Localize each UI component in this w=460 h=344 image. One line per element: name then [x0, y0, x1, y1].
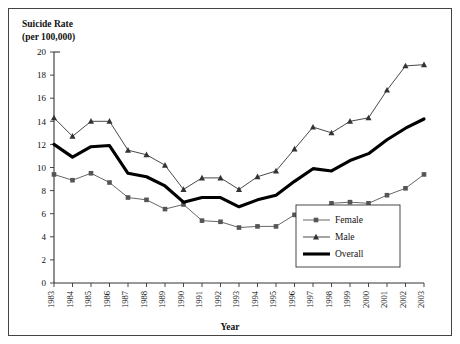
x-tick-label: 1998 — [324, 291, 334, 308]
y-tick-label: 10 — [37, 163, 47, 173]
x-tick-label: 1993 — [231, 291, 241, 308]
data-point-marker — [422, 172, 427, 177]
x-axis-ticks: 1983198419851986198719881989199019911992… — [46, 283, 426, 308]
x-tick-label: 1989 — [157, 291, 167, 308]
suicide-rate-line-chart: Suicide Rate (per 100,000) 0246810121416… — [0, 0, 460, 344]
data-point-marker — [421, 62, 427, 68]
x-tick-label: 1991 — [194, 291, 204, 308]
data-point-marker — [310, 124, 316, 130]
data-point-marker — [365, 115, 371, 121]
data-point-marker — [163, 207, 168, 212]
legend-label: Female — [335, 215, 363, 225]
y-tick-label: 4 — [42, 232, 47, 242]
y-axis-title-line2: (per 100,000) — [22, 32, 75, 43]
data-point-marker — [52, 172, 57, 177]
data-point-marker — [89, 171, 94, 176]
x-tick-label: 1995 — [268, 291, 278, 308]
x-tick-label: 2000 — [361, 291, 371, 308]
x-tick-label: 1988 — [139, 291, 149, 308]
data-point-marker — [144, 198, 149, 203]
x-tick-label: 1986 — [102, 291, 112, 308]
x-tick-label: 1997 — [305, 291, 315, 308]
y-tick-label: 0 — [42, 278, 47, 288]
data-point-marker — [51, 115, 57, 121]
x-tick-label: 1985 — [83, 291, 93, 308]
data-point-marker — [236, 186, 242, 192]
data-point-marker — [385, 193, 390, 198]
data-point-marker — [200, 218, 205, 223]
y-tick-label: 18 — [37, 70, 47, 80]
data-point-marker — [162, 162, 168, 168]
x-tick-label: 1987 — [120, 291, 130, 308]
y-tick-label: 20 — [37, 47, 47, 57]
y-tick-label: 16 — [37, 93, 47, 103]
y-tick-label: 2 — [42, 255, 47, 265]
data-point-marker — [218, 219, 223, 224]
data-point-marker — [237, 225, 242, 230]
x-tick-label: 1996 — [287, 291, 297, 308]
x-axis-title: Year — [221, 322, 241, 332]
x-tick-label: 2002 — [398, 291, 408, 308]
chart-legend: FemaleMaleOverall — [296, 205, 400, 267]
x-tick-label: 1990 — [176, 291, 186, 308]
x-tick-label: 1984 — [65, 290, 75, 308]
y-tick-label: 12 — [37, 140, 46, 150]
chart-figure: Suicide Rate (per 100,000) 0246810121416… — [0, 0, 460, 344]
data-point-marker — [107, 180, 112, 185]
data-point-marker — [274, 224, 279, 229]
x-tick-label: 2003 — [416, 291, 426, 308]
data-point-marker — [125, 147, 131, 153]
data-point-marker — [70, 178, 75, 183]
y-axis-ticks: 02468101214161820 — [37, 47, 54, 288]
data-point-marker — [126, 195, 131, 200]
data-point-marker — [255, 224, 260, 229]
x-tick-label: 1992 — [213, 291, 223, 308]
x-tick-label: 1994 — [250, 290, 260, 308]
y-axis-title-line1: Suicide Rate — [22, 19, 73, 29]
y-tick-label: 14 — [37, 117, 47, 127]
y-tick-label: 8 — [42, 186, 47, 196]
y-tick-label: 6 — [42, 209, 47, 219]
legend-label: Male — [335, 232, 355, 242]
data-point-marker — [403, 186, 408, 191]
legend-label: Overall — [335, 249, 364, 259]
x-tick-label: 2001 — [379, 291, 389, 308]
data-point-marker — [348, 200, 353, 205]
y-axis-title: Suicide Rate (per 100,000) — [22, 19, 75, 43]
series-male — [51, 62, 427, 192]
x-tick-label: 1999 — [342, 291, 352, 308]
series-overall — [54, 119, 424, 207]
figure-border — [9, 9, 452, 336]
x-tick-label: 1983 — [46, 291, 56, 308]
